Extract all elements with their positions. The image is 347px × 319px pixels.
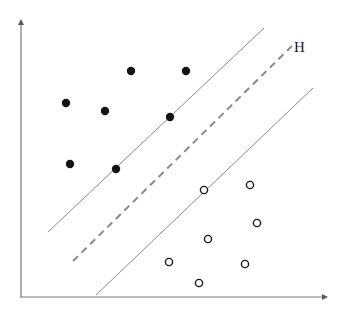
open-point <box>253 219 260 226</box>
open-point <box>204 235 211 242</box>
x-axis-arrowhead <box>322 294 328 300</box>
filled-point-support-vector <box>166 113 174 121</box>
open-point <box>195 279 202 286</box>
filled-point <box>182 67 190 75</box>
filled-point <box>127 67 135 75</box>
open-point <box>241 260 248 267</box>
hyperplane-label: H <box>294 40 305 55</box>
filled-point <box>101 107 109 115</box>
svm-margin-figure: H <box>0 0 347 319</box>
upper-margin-line <box>48 28 264 232</box>
data-points <box>62 67 261 287</box>
filled-point <box>66 160 74 168</box>
open-point-support-vector <box>200 186 207 193</box>
axes-group <box>18 19 328 300</box>
filled-point-support-vector <box>112 165 120 173</box>
open-point <box>165 258 172 265</box>
open-point <box>246 181 253 188</box>
filled-point <box>62 99 70 107</box>
decision-boundary-lines <box>48 28 313 295</box>
y-axis-arrowhead <box>18 19 24 25</box>
